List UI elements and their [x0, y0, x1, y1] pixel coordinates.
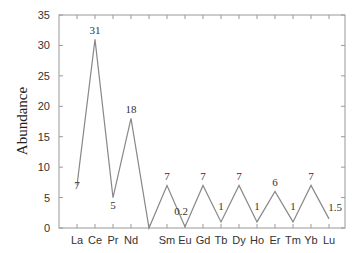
y-tick-label: 10: [38, 161, 50, 173]
x-tick-label: Ce: [88, 234, 102, 246]
x-tick-label: Eu: [178, 234, 191, 246]
y-axis-ticks: 05101520253035: [38, 9, 345, 234]
data-label: 7: [74, 179, 80, 191]
data-label: 1: [218, 200, 224, 212]
y-tick-label: 15: [38, 131, 50, 143]
x-tick-label: La: [71, 234, 84, 246]
data-label: 6: [272, 176, 278, 188]
data-label: 7: [164, 170, 170, 182]
x-tick-label: Gd: [196, 234, 211, 246]
x-tick-label: Dy: [232, 234, 246, 246]
data-label: 1: [254, 200, 260, 212]
data-label: 1.5: [328, 201, 342, 213]
y-tick-label: 25: [38, 70, 50, 82]
x-tick-label: Er: [270, 234, 281, 246]
data-label: 0.2: [174, 205, 188, 217]
x-tick-label: Tb: [215, 234, 228, 246]
data-label: 5: [110, 199, 116, 211]
plot-frame: [59, 15, 345, 228]
data-labels: 73151870.271716171.5: [74, 24, 342, 216]
data-label: 18: [126, 103, 138, 115]
data-label: 7: [308, 170, 314, 182]
abundance-line-chart: 05101520253035 LaCePrNdSmEuGdTbDyHoErTmY…: [0, 0, 355, 253]
data-label: 7: [200, 170, 206, 182]
x-tick-label: Nd: [124, 234, 138, 246]
x-tick-label: Sm: [159, 234, 176, 246]
plot-border: [59, 15, 345, 228]
y-tick-label: 20: [38, 100, 50, 112]
x-tick-label: Tm: [285, 234, 301, 246]
y-axis-title: Abundance: [14, 87, 30, 156]
x-tick-label: Lu: [323, 234, 335, 246]
y-tick-label: 30: [38, 39, 50, 51]
y-tick-label: 5: [44, 192, 50, 204]
data-label: 1: [290, 200, 296, 212]
x-tick-label: Pr: [108, 234, 119, 246]
x-tick-label: Yb: [304, 234, 317, 246]
data-label: 31: [90, 24, 101, 36]
y-tick-label: 35: [38, 9, 50, 21]
x-tick-label: Ho: [250, 234, 264, 246]
y-tick-label: 0: [44, 222, 50, 234]
data-label: 7: [236, 170, 242, 182]
